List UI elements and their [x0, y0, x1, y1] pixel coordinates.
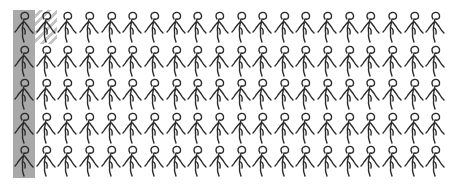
person-icon: [208, 144, 230, 178]
person-icon: [230, 111, 252, 145]
person-icon: [56, 77, 78, 111]
pictogram-chart: [0, 0, 459, 190]
person-icon: [338, 77, 360, 111]
person-icon: [121, 144, 143, 178]
person-icon: [273, 144, 295, 178]
person-icon: [359, 144, 381, 178]
person-icon: [143, 10, 165, 44]
person-icon: [230, 144, 252, 178]
person-icon: [403, 77, 425, 111]
person-icon: [251, 144, 273, 178]
person-icon: [121, 44, 143, 78]
person-icon: [208, 44, 230, 78]
person-icon: [56, 10, 78, 44]
person-icon: [424, 10, 446, 44]
person-icon: [381, 77, 403, 111]
person-icon: [186, 77, 208, 111]
person-icon: [186, 10, 208, 44]
person-icon: [381, 111, 403, 145]
person-icon: [56, 111, 78, 145]
person-icon: [251, 10, 273, 44]
person-icon: [78, 10, 100, 44]
person-icon: [273, 10, 295, 44]
person-icon: [56, 144, 78, 178]
person-icon: [35, 144, 57, 178]
person-icon: [13, 111, 35, 145]
person-icon: [208, 77, 230, 111]
person-icon: [100, 77, 122, 111]
person-icon: [143, 111, 165, 145]
person-icon: [100, 10, 122, 44]
person-icon: [403, 111, 425, 145]
person-icon: [359, 44, 381, 78]
person-icon: [316, 10, 338, 44]
person-icon: [338, 144, 360, 178]
person-icon: [13, 144, 35, 178]
person-icon: [165, 77, 187, 111]
person-icon: [424, 44, 446, 78]
person-icon: [294, 144, 316, 178]
person-icon: [35, 44, 57, 78]
person-icon: [359, 10, 381, 44]
person-icon: [78, 111, 100, 145]
person-icon: [121, 77, 143, 111]
person-icon: [230, 10, 252, 44]
person-icon: [403, 44, 425, 78]
person-icon: [143, 77, 165, 111]
person-icon: [424, 77, 446, 111]
person-icon: [294, 77, 316, 111]
person-icon: [273, 77, 295, 111]
person-icon: [381, 44, 403, 78]
person-icon: [208, 10, 230, 44]
person-icon: [13, 10, 35, 44]
person-icon: [316, 144, 338, 178]
person-icon: [186, 44, 208, 78]
person-icon: [273, 111, 295, 145]
person-icon: [165, 44, 187, 78]
person-icon: [316, 111, 338, 145]
person-icon: [338, 44, 360, 78]
person-icon: [251, 111, 273, 145]
person-icon: [78, 144, 100, 178]
person-icon: [78, 44, 100, 78]
person-icon: [230, 77, 252, 111]
person-icon: [294, 10, 316, 44]
person-icon: [165, 111, 187, 145]
person-icon: [35, 10, 57, 44]
person-icon: [100, 44, 122, 78]
person-icon: [338, 111, 360, 145]
person-icon: [403, 10, 425, 44]
person-icon: [165, 144, 187, 178]
person-icon: [78, 77, 100, 111]
person-icon: [338, 10, 360, 44]
person-icon: [100, 111, 122, 145]
person-icon: [359, 111, 381, 145]
person-icon: [381, 10, 403, 44]
person-icon: [186, 144, 208, 178]
person-icon: [251, 77, 273, 111]
person-icon: [424, 144, 446, 178]
person-icon: [316, 77, 338, 111]
person-icon: [381, 144, 403, 178]
person-icon: [35, 111, 57, 145]
person-icon: [424, 111, 446, 145]
person-icon: [403, 144, 425, 178]
person-icon: [186, 111, 208, 145]
person-icon: [13, 77, 35, 111]
person-icon: [359, 77, 381, 111]
person-icon: [121, 111, 143, 145]
person-icon: [230, 44, 252, 78]
person-icon: [143, 144, 165, 178]
person-icon: [208, 111, 230, 145]
person-icon: [316, 44, 338, 78]
person-icon: [35, 77, 57, 111]
person-icon: [294, 111, 316, 145]
person-icon: [251, 44, 273, 78]
person-icon: [273, 44, 295, 78]
person-icon: [143, 44, 165, 78]
person-icon: [294, 44, 316, 78]
person-icon: [56, 44, 78, 78]
person-icon: [100, 144, 122, 178]
person-icon: [13, 44, 35, 78]
person-icon: [121, 10, 143, 44]
